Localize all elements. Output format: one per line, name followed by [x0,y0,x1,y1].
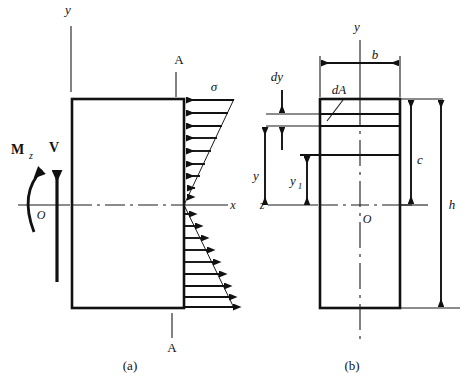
panel-a-section-label-bottom: A [167,340,177,355]
bending-moment-label: M [11,142,24,157]
panel-b: y b dy dA y [251,19,460,373]
panel-a: y A A x O V M z σ [11,2,236,373]
element-area-leader-line [327,100,343,121]
y-dimension-label: y [251,168,259,183]
panel-a-origin-label: O [37,208,46,222]
bending-moment-arrow [28,170,42,232]
tension-stress-arrows [184,214,233,307]
panel-b-z-axis-label: z [259,198,265,212]
bending-moment-subscript: z [28,150,33,161]
c-dimension-label: c [417,152,423,167]
beam-elevation-rect [72,99,184,308]
width-dimension-label: b [372,47,379,62]
engineering-diagram: y A A x O V M z σ [0,0,465,392]
panel-a-section-label-top: A [174,52,184,67]
panel-b-y-axis-label: y [352,19,360,34]
dy-dimension-label: dy [271,69,284,84]
shear-force-label: V [49,140,59,155]
stress-envelope-tension [184,205,234,308]
y1-dimension-label: y [288,173,296,188]
panel-b-caption: (b) [344,358,359,373]
stress-sigma-label: σ [211,79,218,94]
stress-envelope-compression [184,99,234,205]
h-dimension-label: h [449,197,456,212]
panel-a-caption: (a) [123,358,137,373]
element-area-label: dA [332,82,347,97]
y1-dimension-subscript: 1 [298,181,303,191]
figure-root: y A A x O V M z σ [0,0,465,392]
panel-a-x-axis-label: x [229,198,236,212]
panel-b-origin-label: O [363,212,372,226]
panel-a-y-axis-label: y [63,2,71,17]
